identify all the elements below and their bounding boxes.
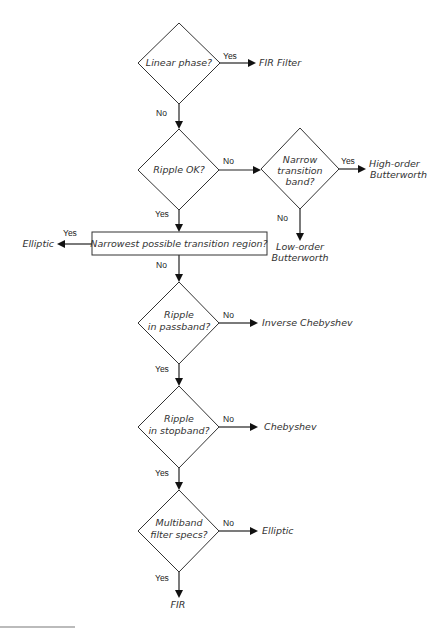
label-no: No [223,518,234,528]
arrowhead-left-icon [57,240,65,248]
arrowhead-right-icon [250,527,258,535]
text-elliptic-1[interactable]: Elliptic [22,238,54,249]
shapes [92,23,339,572]
text-narrowest-region: Narrowest possible transition region? [90,238,267,249]
label-yes: Yes [155,468,169,478]
flowchart-svg: Linear phase? FIR Filter Ripple OK? Narr… [0,0,441,628]
arrowhead-down-icon [175,121,183,129]
text-multiband-2: filter specs? [150,529,207,540]
text-high-order-1[interactable]: High-order [369,158,421,169]
text-multiband-1: Multiband [155,517,203,528]
arrowhead-right-icon [358,165,366,173]
text-high-order-2[interactable]: Butterworth [370,169,427,180]
label-yes: Yes [155,209,169,219]
text-narrow-band-3: band? [286,176,315,187]
label-no: No [223,310,234,320]
text-inverse-chebyshev[interactable]: Inverse Chebyshev [262,317,353,328]
label-no: No [223,414,234,424]
text-elliptic-2[interactable]: Elliptic [262,525,294,536]
text-low-order-1[interactable]: Low-order [276,241,325,252]
arrowhead-right-icon [253,166,261,174]
text-chebyshev[interactable]: Chebyshev [264,421,317,432]
label-yes: Yes [341,156,355,166]
arrowhead-down-icon [175,590,183,598]
text-fir-filter[interactable]: FIR Filter [259,57,302,68]
arrowhead-down-icon [175,378,183,386]
text-ripple-ok: Ripple OK? [153,164,205,175]
flowchart-canvas: Linear phase? FIR Filter Ripple OK? Narr… [0,0,441,628]
label-no: No [277,213,288,223]
arrowhead-down-icon [175,224,183,232]
arrowhead-down-icon [175,482,183,490]
label-yes: Yes [155,364,169,374]
text-ripple-stopband-2: in stopband? [148,425,209,436]
arrowhead-right-icon [250,319,258,327]
text-ripple-passband-1: Ripple [164,309,194,320]
label-no: No [156,260,167,270]
arrowhead-right-icon [250,423,258,431]
label-no: No [156,108,167,118]
text-narrow-band-2: transition [277,165,322,176]
arrowhead-down-icon [296,233,304,241]
text-ripple-stopband-1: Ripple [164,413,194,424]
text-ripple-passband-2: in passband? [148,321,210,332]
label-yes: Yes [155,573,169,583]
text-linear-phase: Linear phase? [146,57,212,68]
label-yes: Yes [223,51,237,61]
arrowhead-down-icon [175,274,183,282]
text-low-order-2[interactable]: Butterworth [272,252,329,263]
text-fir[interactable]: FIR [171,599,186,610]
arrowhead-right-icon [248,59,256,67]
text-narrow-band-1: Narrow [283,154,318,165]
label-no: No [223,156,234,166]
label-yes: Yes [63,228,77,238]
